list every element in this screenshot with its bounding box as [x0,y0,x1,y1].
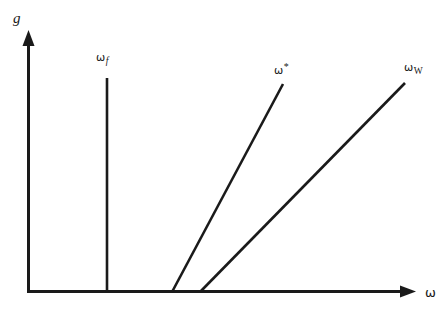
omega-w-label-base: ω [404,61,413,74]
omega-star-label: ω* [274,62,289,77]
x-axis-arrow-icon [400,286,416,298]
omega-w-label: ωW [404,62,423,76]
y-axis-arrow-icon [23,30,35,46]
omega-f-label-base: ω [96,51,105,64]
omega-f-label: ωf [96,52,108,66]
omega-w-label-subscript: W [413,66,422,76]
figure-root: g ω ωf ω* ωW [0,0,444,313]
x-axis-label: ω [425,286,436,299]
x-axis-label-symbol: ω [425,285,436,300]
omega-f-label-subscript: f [105,56,108,66]
omega-w-ramp-line [200,83,405,292]
y-axis-label: g [13,11,21,26]
omega-star-label-superscript: * [283,61,289,72]
plot-canvas [0,0,444,313]
omega-star-ramp-line [172,84,283,292]
omega-star-label-base: ω [274,64,283,77]
